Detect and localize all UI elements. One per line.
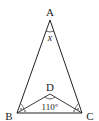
angle-arc-d bbox=[45, 97, 55, 99]
label-a: A bbox=[46, 6, 54, 18]
angle-mark-c-1 bbox=[77, 108, 79, 110]
label-angle-bdc: 110° bbox=[42, 102, 59, 112]
triangle-diagram: A x D 110° B C bbox=[0, 0, 99, 121]
label-b: B bbox=[5, 110, 12, 121]
angle-mark-b-2 bbox=[24, 110, 26, 112]
angle-mark-b-1 bbox=[20, 108, 22, 110]
angle-mark-c-2 bbox=[73, 110, 75, 112]
label-x: x bbox=[47, 32, 53, 43]
label-d: D bbox=[46, 81, 54, 93]
label-c: C bbox=[86, 110, 93, 121]
